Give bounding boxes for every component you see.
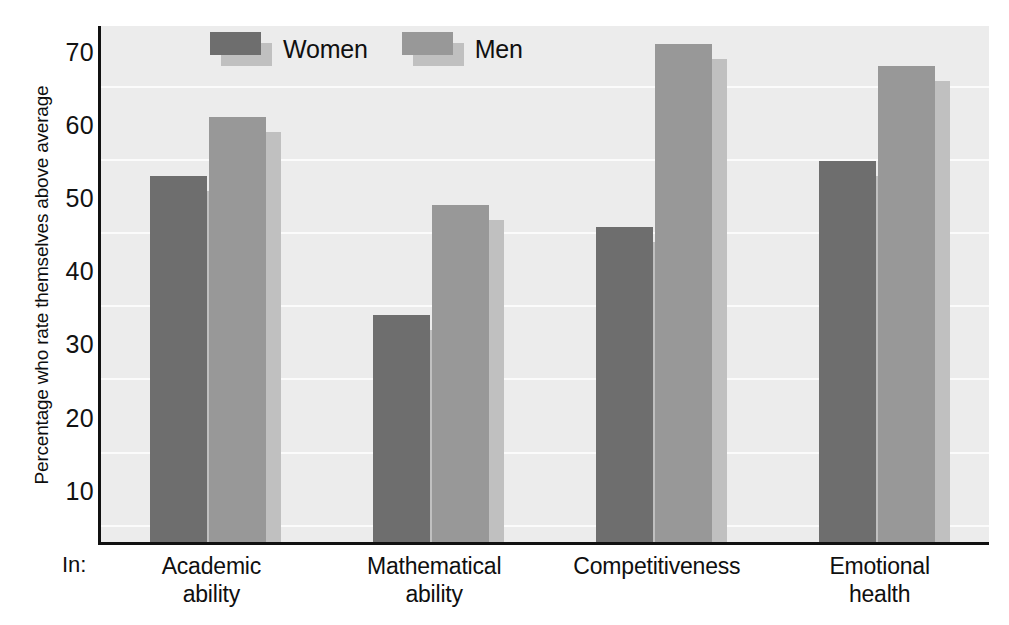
y-axis-tick-label: 30 [48, 330, 94, 359]
bar-chart: Percentage who rate themselves above ave… [0, 0, 1009, 625]
x-axis-category-line: ability [162, 580, 261, 608]
y-axis-tick-label: 60 [48, 110, 94, 139]
x-axis-category-label: Emotionalhealth [829, 552, 929, 608]
x-axis-tick-labels: In: AcademicabilityMathematicalabilityCo… [0, 552, 1009, 622]
bar [819, 161, 876, 542]
x-axis-category-line: Academic [162, 552, 261, 580]
gridline [101, 86, 989, 88]
bar [878, 66, 935, 542]
legend: WomenMen [210, 32, 523, 66]
legend-label: Women [283, 35, 368, 64]
x-axis-category-line: ability [367, 580, 501, 608]
bar [655, 44, 712, 542]
x-axis-prefix-label: In: [62, 552, 86, 578]
plot-area [98, 26, 989, 545]
x-axis-category-label: Mathematicalability [367, 552, 501, 608]
x-axis-category-line: Emotional [829, 552, 929, 580]
bar [150, 176, 207, 542]
bar [373, 315, 430, 542]
legend-label: Men [475, 35, 523, 64]
x-axis-category-label: Competitiveness [573, 552, 740, 580]
y-axis-tick-label: 10 [48, 476, 94, 505]
legend-entry: Men [402, 32, 523, 66]
bar [596, 227, 653, 542]
legend-swatch [402, 32, 453, 55]
bar [209, 117, 266, 542]
x-axis-category-line: Competitiveness [573, 552, 740, 580]
y-axis-tick-label: 40 [48, 257, 94, 286]
x-axis-category-line: Mathematical [367, 552, 501, 580]
y-axis-tick-label: 20 [48, 403, 94, 432]
legend-swatch [210, 32, 261, 55]
legend-entry: Women [210, 32, 368, 66]
x-axis-category-label: Academicability [162, 552, 261, 608]
x-axis-category-line: health [829, 580, 929, 608]
bar [432, 205, 489, 542]
y-axis-tick-label: 50 [48, 183, 94, 212]
y-axis-tick-label: 70 [48, 37, 94, 66]
legend-swatch-wrap [210, 32, 272, 66]
legend-swatch-wrap [402, 32, 464, 66]
